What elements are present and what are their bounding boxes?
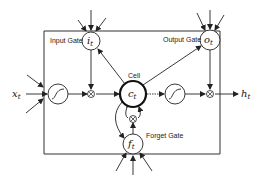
input-squash-node <box>48 84 68 104</box>
output-squash-node <box>165 84 185 104</box>
input-gate-label: Input Gate <box>50 37 83 45</box>
input-label: xt <box>12 88 21 101</box>
forget-gate-inputs <box>116 153 152 175</box>
lstm-diagram: it Input Gate ot Output Gate ct Cell <box>0 0 261 183</box>
input-gate-node: it <box>82 32 100 50</box>
cell-label: Cell <box>128 72 141 79</box>
input-multiply-node <box>88 91 95 98</box>
forget-gate-node: ft <box>123 134 143 154</box>
output-gate-label: Output Gate <box>163 36 201 44</box>
output-label: ht <box>241 88 250 101</box>
output-gate-inputs <box>197 10 224 30</box>
output-multiply-node <box>207 91 214 98</box>
output-gate-node: ot <box>200 30 220 50</box>
cell-node: ct <box>120 81 146 107</box>
input-gate-inputs <box>78 10 106 31</box>
forget-gate-label: Forget Gate <box>146 132 183 140</box>
forget-multiply-node <box>130 116 137 123</box>
